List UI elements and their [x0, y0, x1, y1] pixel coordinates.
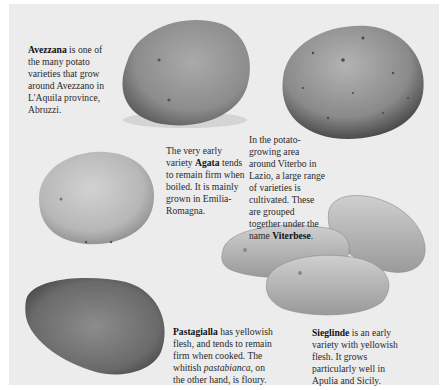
caption-pastagialla: Pastagialla has yellowish flesh, and ten…	[173, 326, 275, 386]
caption-agata: The very early variety Agata tends to re…	[166, 145, 248, 217]
caption-viterbese: In the potato-growing area around Viterb…	[249, 134, 327, 242]
potato-image-avezzana	[107, 12, 257, 134]
variety-name-pastagialla: Pastagialla	[173, 326, 218, 337]
document-page: Avezzana is one of the many potato varie…	[9, 4, 439, 385]
potato-image-agata	[31, 144, 161, 248]
caption-sieglinde: Sieglinde is an early variety with yello…	[312, 327, 412, 387]
variety-name-agata: Agata	[195, 157, 220, 168]
variety-name-viterbese: Viterbese	[272, 230, 311, 241]
variety-name-sieglinde: Sieglinde	[312, 327, 349, 338]
potato-image-pastagialla	[21, 272, 171, 378]
potato-image-viterbese	[273, 18, 433, 146]
caption-avezzana: Avezzana is one of the many potato varie…	[28, 44, 108, 116]
variety-name-avezzana: Avezzana	[28, 44, 67, 55]
